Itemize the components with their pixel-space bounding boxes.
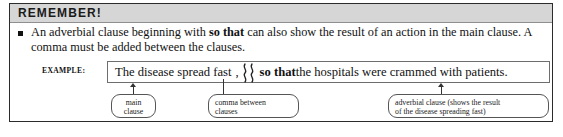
double-squiggle-icon	[241, 63, 259, 83]
page-title: REMEMBER!	[18, 6, 102, 20]
remember-header-band: REMEMBER!	[10, 4, 552, 23]
rule-text-part1: An adverbial clause beginning with	[31, 25, 209, 39]
main-clause-text: The disease spread fast	[115, 65, 231, 80]
adverbial-clause-connector-line	[441, 86, 442, 94]
comma-text: ,	[235, 65, 238, 80]
remember-callout-box: REMEMBER! An adverbial clause beginning …	[9, 3, 553, 122]
callout-main-clause-line-1: main	[118, 98, 149, 107]
callout-main-clause: main clause	[111, 94, 156, 118]
subordinator-text: so that	[260, 65, 296, 80]
square-bullet-icon	[18, 31, 23, 36]
rule-bullet-row: An adverbial clause beginning with so th…	[18, 25, 546, 54]
main-clause-connector-line	[133, 86, 134, 94]
rule-text: An adverbial clause beginning with so th…	[31, 25, 546, 54]
page-root: REMEMBER! An adverbial clause beginning …	[0, 0, 563, 137]
callout-adverbial-line-1: adverbial clause (shows the result	[395, 98, 542, 107]
comma-connector-line	[223, 79, 224, 94]
example-sentence-box: The disease spread fast, so that the hos…	[107, 61, 550, 83]
callout-comma-line-1: comma between	[215, 98, 292, 107]
callout-main-clause-line-2: clause	[118, 107, 149, 116]
callout-comma-between-clauses: comma between clauses	[208, 94, 299, 118]
callout-adverbial-line-2: of the disease spreading fast)	[395, 107, 542, 116]
example-label: EXAMPLE:	[42, 66, 85, 75]
rule-text-emphasis: so that	[209, 25, 244, 39]
callout-adverbial-clause: adverbial clause (shows the result of th…	[388, 94, 549, 118]
example-sentence-text: The disease spread fast, so that the hos…	[108, 62, 549, 82]
adverbial-clause-text: the hospitals were crammed with patients…	[296, 65, 508, 80]
callout-comma-line-2: clauses	[215, 107, 292, 116]
